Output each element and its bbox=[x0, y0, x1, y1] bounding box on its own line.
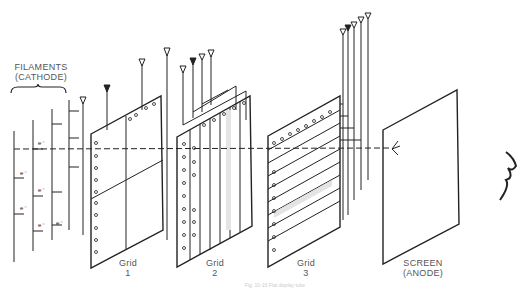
grid-1-plate bbox=[91, 96, 163, 268]
grid-1-name: Grid bbox=[113, 258, 143, 268]
electron-symbol: e⁻ bbox=[56, 218, 63, 228]
screen-label: SCREEN (ANODE) bbox=[398, 258, 448, 278]
filament-brace bbox=[11, 84, 66, 93]
electron-symbol: e⁻ bbox=[20, 203, 27, 213]
figure-caption: Fig. 10-16 Flat display tube bbox=[225, 282, 325, 288]
grid-1-number: 1 bbox=[113, 268, 143, 278]
electron-symbol: e⁻ bbox=[38, 185, 45, 195]
grid-1-label: Grid 1 bbox=[113, 258, 143, 278]
flat-display-diagram bbox=[0, 0, 527, 292]
eye-icon bbox=[500, 152, 516, 200]
grid-3-label: Grid 3 bbox=[291, 258, 321, 278]
grid-2-name: Grid bbox=[200, 258, 230, 268]
grid-2-label: Grid 2 bbox=[200, 258, 230, 278]
screen-text: SCREEN bbox=[398, 258, 448, 268]
grid-3-name: Grid bbox=[291, 258, 321, 268]
electron-beam-path bbox=[14, 148, 390, 149]
screen-anode-plate bbox=[383, 90, 459, 264]
cathode-text: (CATHODE) bbox=[8, 72, 74, 82]
electron-symbol: e⁻ bbox=[20, 168, 27, 178]
filaments-label: FILAMENTS (CATHODE) bbox=[8, 62, 74, 82]
electron-symbol: e⁻ bbox=[38, 220, 45, 230]
anode-text: (ANODE) bbox=[398, 268, 448, 278]
filaments-text: FILAMENTS bbox=[8, 62, 74, 72]
grid-2-number: 2 bbox=[200, 268, 230, 278]
grid-3-number: 3 bbox=[291, 268, 321, 278]
electron-symbol: e⁻ bbox=[38, 138, 45, 148]
